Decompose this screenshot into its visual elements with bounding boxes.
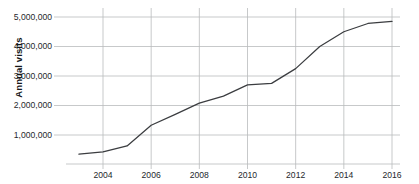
x-axis-tick-label: 2008 [179,171,219,180]
y-axis-title: Annual visits [13,19,24,117]
x-axis-tick-label: 2004 [83,171,123,180]
line-chart: 1,000,0002,000,0003,000,0004,000,0005,00… [0,0,419,184]
x-axis-tick-label: 2006 [131,171,171,180]
x-axis-tick-label: 2010 [228,171,268,180]
x-axis-tick-label: 2012 [276,171,316,180]
x-axis-tick-label: 2014 [324,171,364,180]
x-axis-tick-labels: 2004200620082010201220142016 [0,0,419,184]
x-axis-tick-label: 2016 [372,171,412,180]
